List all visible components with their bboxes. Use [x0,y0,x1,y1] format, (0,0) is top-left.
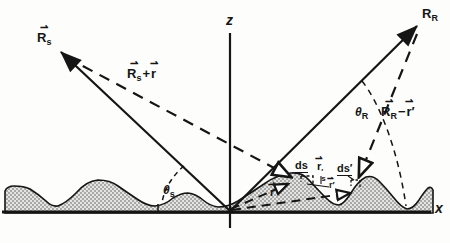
relative-vector-label: ⇀r′s [317,161,326,183]
vector-arrow-icon: ⇀ [130,59,138,69]
vector-arrow-icon: ⇀ [315,154,323,163]
vector-arrow-icon: ⇀ [327,175,334,183]
receiver-point-label: RR [422,7,438,20]
source-subscript: s [46,37,51,47]
surface-element-label: ds [295,160,308,171]
incidence-angle-label: θs [163,184,175,196]
receiver-symbol: R [422,6,431,21]
receiver-subscript: R [431,13,438,23]
vector-arrow-icon: ⇀ [405,97,413,107]
scattering-angle-label: θR [355,106,368,118]
surface-element-prime-label: ds′ [337,163,352,174]
ds-prime-text: ds′ [337,162,352,176]
rough-surface [5,173,433,213]
z-axis-label: z [226,13,233,27]
ds-prime-base: ds [337,162,350,174]
vector-arrow-icon: ⇀ [268,180,276,189]
vector-arrow-icon: ⇀ [385,97,393,107]
theta-symbol: θ [355,105,362,119]
dashed-line-source-to-ds [66,57,291,177]
r-s-prime-subscript: s [321,176,325,183]
theta-s-subscript: s [170,189,175,199]
z-axis-letter: z [226,12,233,28]
diagram-canvas [0,0,450,243]
theta-symbol: θ [163,183,170,197]
incident-vector-sum-label: ⇀Rs+⇀r [127,67,156,80]
sum-term-a-sub: s [136,73,141,83]
diff-term-a-sub: R [390,111,397,121]
x-axis-label: x [435,201,443,215]
ds-prime-mark: ′ [350,162,353,174]
ds-text: ds [295,159,308,173]
x-axis-letter: x [435,200,443,216]
position-vector-label: ⇀r [270,187,274,198]
scattering-geometry-diagram: z x ⇀Rs RR ⇀Rs+⇀r ⇀RR−⇀r′ θs θR ds ds′ ⇀… [0,0,450,243]
vector-arrow-icon: ⇀ [150,59,158,69]
theta-r-subscript: R [362,111,369,121]
source-point-label: ⇀Rs [37,31,51,44]
position-vector-prime-label: ⇀r′ [329,181,335,190]
vector-arrow-icon: ⇀ [40,23,48,33]
receiver-vector-diff-label: ⇀RR−⇀r′ [381,105,415,118]
